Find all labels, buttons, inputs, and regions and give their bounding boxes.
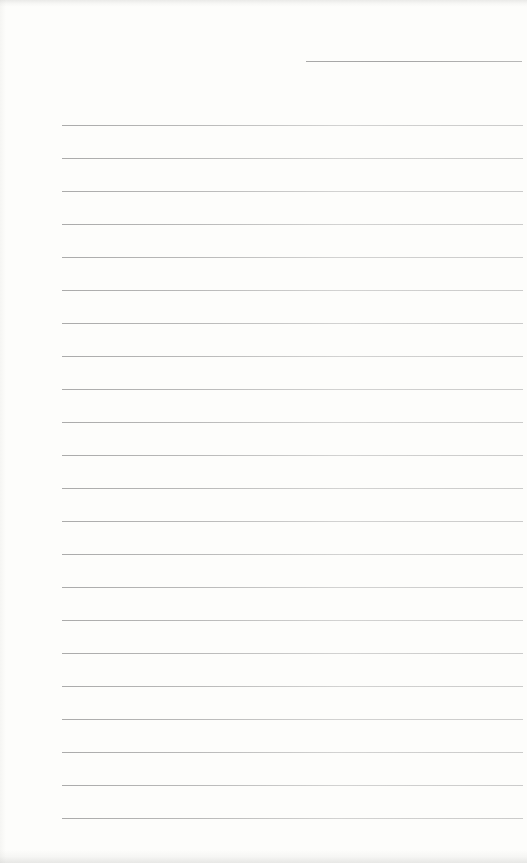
ruled-line bbox=[62, 191, 523, 192]
scan-artifact-top bbox=[0, 0, 527, 7]
ruled-line bbox=[62, 785, 523, 786]
header-rule bbox=[306, 61, 522, 62]
ruled-line bbox=[62, 257, 523, 258]
notebook-page bbox=[0, 0, 527, 863]
ruled-line bbox=[62, 620, 523, 621]
ruled-line bbox=[62, 521, 523, 522]
ruled-line bbox=[62, 422, 523, 423]
ruled-line bbox=[62, 125, 523, 126]
ruled-line bbox=[62, 587, 523, 588]
ruled-line bbox=[62, 752, 523, 753]
ruled-line bbox=[62, 356, 523, 357]
ruled-line bbox=[62, 224, 523, 225]
ruled-line bbox=[62, 818, 523, 819]
ruled-line bbox=[62, 158, 523, 159]
ruled-line bbox=[62, 719, 523, 720]
ruled-line bbox=[62, 488, 523, 489]
ruled-line bbox=[62, 653, 523, 654]
ruled-line bbox=[62, 323, 523, 324]
ruled-line bbox=[62, 290, 523, 291]
ruled-line bbox=[62, 455, 523, 456]
ruled-line bbox=[62, 554, 523, 555]
ruled-line bbox=[62, 686, 523, 687]
scan-artifact-bottom bbox=[0, 850, 527, 863]
scan-artifact-left-edge bbox=[0, 0, 6, 863]
ruled-line bbox=[62, 389, 523, 390]
